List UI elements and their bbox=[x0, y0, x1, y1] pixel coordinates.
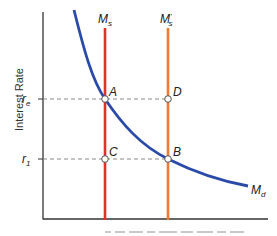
tick-label-r1: r1 bbox=[22, 153, 30, 167]
point-c-label: C bbox=[109, 146, 118, 158]
point-d-marker bbox=[165, 96, 172, 103]
point-d-label: D bbox=[173, 86, 182, 98]
point-b-marker bbox=[165, 156, 172, 163]
point-a-label: A bbox=[109, 86, 117, 98]
money-market-diagram bbox=[0, 0, 277, 236]
tick-label-re: re bbox=[22, 93, 30, 107]
money-demand-curve bbox=[74, 10, 248, 186]
money-supply-new-label: M's bbox=[160, 13, 173, 27]
money-demand-label: Md bbox=[251, 184, 265, 198]
x-axis-caption-clipped bbox=[105, 231, 270, 236]
money-supply-label: Ms bbox=[98, 13, 112, 27]
point-a-marker bbox=[102, 96, 109, 103]
point-b-label: B bbox=[173, 146, 181, 158]
point-c-marker bbox=[102, 156, 109, 163]
